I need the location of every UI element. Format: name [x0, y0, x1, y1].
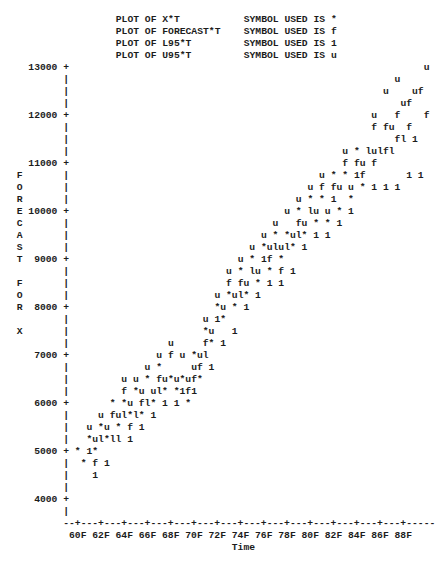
plot-points: u * lulfl	[69, 146, 395, 157]
legend-entry: PLOT OF U95*T SYMBOL USED IS u	[116, 50, 337, 62]
y-tick-label	[28, 422, 63, 433]
plot-row: R | u * * 1 *	[17, 194, 354, 206]
x-axis-label-line: Time	[17, 542, 255, 554]
plot-points: * f 1	[69, 458, 110, 469]
x-axis-label: Time	[232, 542, 255, 553]
y-axis-label-letter: X	[17, 326, 29, 337]
plot-points: f *u ul* *1f1	[69, 386, 197, 397]
legend-symbol-text: SYMBOL USED IS f	[244, 26, 337, 37]
plot-row: | * f 1	[17, 458, 110, 470]
y-tick-label	[28, 74, 63, 85]
y-tick-label	[28, 98, 63, 109]
plot-points: u *ulul* 1	[69, 242, 307, 253]
y-axis-label-letter	[17, 506, 29, 517]
plot-row: | u u * fu*u*uf*	[17, 374, 203, 386]
plot-row: | 1	[17, 470, 98, 482]
plot-row: | u 1*	[17, 314, 226, 326]
y-tick-label	[28, 218, 63, 229]
y-tick-label: 9000	[28, 254, 63, 265]
y-tick-label	[28, 386, 63, 397]
y-axis-label-letter	[17, 446, 29, 457]
plot-points: * 1*	[69, 446, 98, 457]
y-axis-label-letter: F	[17, 170, 29, 181]
text-plot: PLOT OF X*T SYMBOL USED IS *PLOT OF FORE…	[0, 0, 443, 561]
y-tick-label	[28, 290, 63, 301]
plot-row: | f fu f	[17, 122, 412, 134]
y-axis-label-letter: A	[17, 230, 29, 241]
plot-points: fl 1	[69, 134, 418, 145]
y-axis-label-letter	[17, 350, 29, 361]
y-tick-label	[28, 266, 63, 277]
x-axis-line: --+---+---+---+---+---+---+---+---+---+-…	[17, 518, 436, 530]
y-tick-label	[28, 230, 63, 241]
y-axis-label-letter	[17, 134, 29, 145]
y-axis-label-letter	[17, 422, 29, 433]
plot-row: S | u *ulul* 1	[17, 242, 308, 254]
plot-row: | *ul*ll 1	[17, 434, 133, 446]
plot-row: O | u *ul* 1	[17, 290, 261, 302]
plot-row: |	[17, 506, 69, 518]
legend-plot-text: PLOT OF X*T	[116, 14, 244, 25]
plot-points: u * lu * f 1	[69, 266, 296, 277]
plot-points: u * uf 1	[69, 362, 214, 373]
y-tick-label	[28, 242, 63, 253]
plot-row: | u f* 1	[17, 338, 226, 350]
y-tick-label	[28, 86, 63, 97]
y-tick-label: 13000	[28, 62, 63, 73]
plot-points: u u * fu*u*uf*	[69, 374, 203, 385]
y-tick-label: 6000	[28, 398, 63, 409]
y-tick-label: 5000	[28, 446, 63, 457]
plot-points: u *u * f 1	[69, 422, 145, 433]
plot-points: *ul*ll 1	[69, 434, 133, 445]
y-axis-label-letter	[17, 374, 29, 385]
y-axis-label-letter	[17, 62, 29, 73]
plot-points: u f u *ul	[69, 350, 209, 361]
y-tick-label	[28, 434, 63, 445]
y-tick-label: 12000	[28, 110, 63, 121]
y-tick-label	[28, 482, 63, 493]
plot-row: | uf	[17, 98, 412, 110]
plot-row: | u *u * f 1	[17, 422, 145, 434]
plot-points: u 1*	[69, 314, 226, 325]
plot-points: u f* 1	[69, 338, 226, 349]
y-axis-label-letter	[17, 74, 29, 85]
y-axis-label-letter	[17, 458, 29, 469]
y-tick-label	[28, 458, 63, 469]
legend-entry: PLOT OF L95*T SYMBOL USED IS 1	[116, 38, 337, 50]
plot-points: f fu * 1 1	[69, 278, 284, 289]
legend-symbol-text: SYMBOL USED IS 1	[244, 38, 337, 49]
plot-row: 11000 + f fu f	[17, 158, 377, 170]
y-axis-label-letter	[17, 482, 29, 493]
plot-points: *u * 1	[69, 302, 249, 313]
y-tick-label: 11000	[28, 158, 63, 169]
y-axis-label-letter	[17, 362, 29, 373]
y-tick-label	[28, 146, 63, 157]
plot-points: u ful*l* 1	[69, 410, 156, 421]
y-tick-label: 10000	[28, 206, 63, 217]
y-tick-label	[28, 326, 63, 337]
plot-row: F | f fu * 1 1	[17, 278, 284, 290]
y-axis-line: |	[63, 482, 69, 493]
legend-entry: PLOT OF X*T SYMBOL USED IS *	[116, 14, 337, 26]
y-tick-label	[28, 134, 63, 145]
y-axis-label-letter: R	[17, 302, 29, 313]
y-axis-label-letter	[17, 98, 29, 109]
plot-points: * *u fl* 1 1 *	[69, 398, 191, 409]
legend-plot-text: PLOT OF U95*T	[116, 50, 244, 61]
plot-row: 6000 + * *u fl* 1 1 *	[17, 398, 191, 410]
y-tick-label	[28, 314, 63, 325]
y-axis-label-letter	[17, 86, 29, 97]
plot-row: |	[17, 482, 69, 494]
y-axis-label-letter: E	[17, 206, 29, 217]
plot-row: A | u * *ul* 1 1	[17, 230, 331, 242]
plot-points: *u 1	[69, 326, 238, 337]
y-tick-label: 7000	[28, 350, 63, 361]
y-tick-label	[28, 182, 63, 193]
y-tick-label: 8000	[28, 302, 63, 313]
y-axis-label-letter	[17, 398, 29, 409]
legend-symbol-text: SYMBOL USED IS u	[244, 50, 337, 61]
legend-plot-text: PLOT OF L95*T	[116, 38, 244, 49]
plot-points: u * 1f *	[69, 254, 284, 265]
plot-points: u	[69, 62, 429, 73]
plot-row: T 9000 + u * 1f *	[17, 254, 284, 266]
